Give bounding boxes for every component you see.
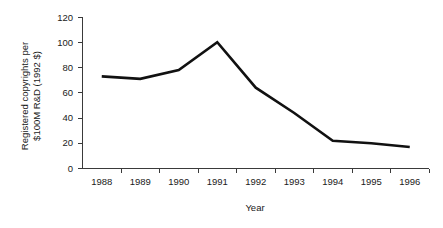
y-axis-title: Registered copyrights per $100M R&D (199… [19, 42, 42, 150]
y-tick-label: 60 [62, 87, 73, 98]
x-tick-label: 1992 [245, 176, 266, 187]
x-axis-title: Year [245, 202, 264, 213]
data-series-line [102, 42, 410, 147]
y-tick-label: 20 [62, 137, 73, 148]
y-tick-label: 100 [57, 37, 73, 48]
y-tick-label: 40 [62, 112, 73, 123]
x-tick-label: 1988 [91, 176, 112, 187]
x-tick-label: 1990 [168, 176, 189, 187]
y-axis-title-line1: Registered copyrights per [19, 42, 30, 150]
y-tick-label: 0 [68, 163, 73, 174]
y-axis-title-line2: $100M R&D (1992 $) [31, 51, 42, 141]
line-chart: Registered copyrights per $100M R&D (199… [0, 0, 443, 228]
y-tick-label: 120 [57, 12, 73, 23]
x-tick-label: 1996 [399, 176, 420, 187]
x-tick-label: 1994 [322, 176, 343, 187]
x-axis-tick-labels: 1988 1989 1990 1991 1992 1993 1994 1995 … [91, 176, 420, 187]
y-tick-label: 80 [62, 62, 73, 73]
chart-figure: Registered copyrights per $100M R&D (199… [0, 0, 443, 228]
y-axis-tick-labels: 120 100 80 60 40 20 0 [57, 12, 73, 174]
x-tick-label: 1989 [130, 176, 151, 187]
y-axis-ticks [78, 18, 83, 169]
x-tick-label: 1995 [361, 176, 382, 187]
x-tick-label: 1991 [207, 176, 228, 187]
x-tick-label: 1993 [284, 176, 305, 187]
x-axis-ticks [121, 169, 429, 174]
